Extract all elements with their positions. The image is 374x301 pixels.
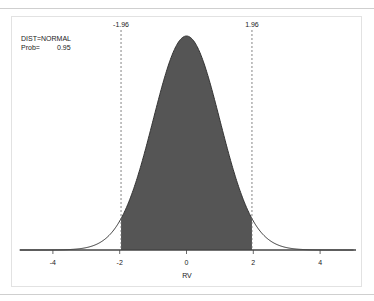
lower-critical-label: -1.96 [113,21,129,28]
upper-critical-label: 1.96 [245,21,259,28]
normal-distribution-chart: -1.96 1.96 -4-2024 RV [0,0,374,301]
x-tick-label: 0 [185,259,189,266]
x-tick-label: -2 [117,259,123,266]
x-axis-label: RV [182,272,192,279]
x-axis-ticks: -4-2024 [50,250,322,266]
shaded-area [121,36,252,250]
x-tick-label: -4 [50,259,56,266]
x-tick-label: 2 [251,259,255,266]
x-tick-label: 4 [318,259,322,266]
